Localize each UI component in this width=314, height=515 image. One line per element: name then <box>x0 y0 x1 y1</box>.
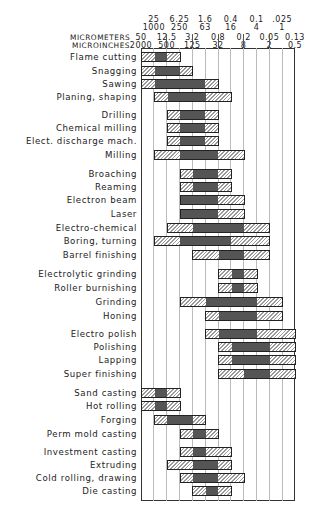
occasional-range-segment <box>218 474 243 482</box>
occasional-range-segment <box>167 389 180 397</box>
tick-label-microinches: 0.5 <box>280 42 310 50</box>
occasional-range-segment <box>168 124 181 132</box>
process-label: Electron beam <box>67 195 137 205</box>
process-range-bar <box>205 329 296 339</box>
process-label: Polishing <box>93 342 137 352</box>
process-range-bar <box>141 66 193 76</box>
average-range-segment <box>167 416 192 424</box>
average-range-segment <box>180 237 231 245</box>
occasional-range-segment <box>142 402 155 410</box>
occasional-range-segment <box>142 389 155 397</box>
tick-label-microinches: 1 <box>267 24 297 32</box>
occasional-range-segment <box>257 330 295 338</box>
average-range-segment <box>155 80 206 88</box>
average-range-segment <box>155 389 168 397</box>
process-label: Cold rolling, drawing <box>36 473 137 483</box>
process-range-bar <box>192 250 270 260</box>
average-range-segment <box>219 330 257 338</box>
occasional-range-segment <box>219 284 232 292</box>
occasional-range-segment <box>219 356 232 364</box>
occasional-range-segment <box>257 298 282 306</box>
process-label: Investment casting <box>44 447 137 457</box>
average-range-segment <box>180 124 205 132</box>
occasional-range-segment <box>219 270 232 278</box>
occasional-range-segment <box>206 448 231 456</box>
occasional-range-segment <box>205 137 218 145</box>
occasional-range-segment <box>270 356 295 364</box>
occasional-range-segment <box>270 370 295 378</box>
process-range-bar <box>154 236 271 246</box>
average-range-segment <box>155 402 168 410</box>
occasional-range-segment <box>168 137 181 145</box>
occasional-range-segment <box>168 224 193 232</box>
occasional-range-segment <box>180 67 193 75</box>
occasional-range-segment <box>168 111 181 119</box>
occasional-range-segment <box>181 170 194 178</box>
occasional-range-segment <box>219 343 232 351</box>
occasional-range-segment <box>181 474 194 482</box>
process-range-bar <box>167 123 219 133</box>
occasional-range-segment <box>167 402 180 410</box>
process-label: Electrolytic grinding <box>38 269 137 279</box>
process-range-bar <box>180 169 232 179</box>
occasional-range-segment <box>155 237 180 245</box>
process-label: Broaching <box>88 169 137 179</box>
process-range-bar <box>154 150 245 160</box>
process-range-bar <box>180 182 232 192</box>
average-range-segment <box>244 370 269 378</box>
occasional-range-segment <box>244 251 269 259</box>
occasional-range-segment <box>142 67 155 75</box>
process-label: Die casting <box>82 486 137 496</box>
process-label: Grinding <box>95 297 137 307</box>
occasional-range-segment <box>155 151 180 159</box>
occasional-range-segment <box>218 487 231 495</box>
occasional-range-segment <box>181 183 194 191</box>
occasional-range-segment <box>193 487 206 495</box>
occasional-range-segment <box>218 170 231 178</box>
occasional-range-segment <box>218 210 243 218</box>
process-label: Super finishing <box>64 369 137 379</box>
process-range-bar <box>180 209 245 219</box>
process-range-bar <box>180 429 220 439</box>
process-label: Sand casting <box>74 388 137 398</box>
process-range-bar <box>218 269 258 279</box>
process-label: Drilling <box>102 110 137 120</box>
process-label: Milling <box>105 150 137 160</box>
occasional-range-segment <box>270 343 295 351</box>
process-label: Hot rolling <box>86 401 137 411</box>
process-range-bar <box>154 415 206 425</box>
process-range-bar <box>192 486 232 496</box>
occasional-range-segment <box>244 270 257 278</box>
process-label: Reaming <box>95 182 137 192</box>
average-range-segment <box>155 53 168 61</box>
occasional-range-segment <box>257 312 282 320</box>
occasional-range-segment <box>193 251 218 259</box>
process-range-bar <box>180 447 232 457</box>
occasional-range-segment <box>205 124 218 132</box>
process-range-bar <box>167 460 232 470</box>
occasional-range-segment <box>244 284 257 292</box>
process-range-bar <box>180 473 245 483</box>
average-range-segment <box>193 224 244 232</box>
occasional-range-segment <box>206 330 219 338</box>
average-range-segment <box>232 356 270 364</box>
occasional-range-segment <box>244 224 269 232</box>
process-label: Laser <box>111 209 137 219</box>
process-range-bar <box>167 110 219 120</box>
process-label: Planing, shaping <box>56 92 137 102</box>
average-range-segment <box>155 67 180 75</box>
average-range-segment <box>232 270 245 278</box>
process-label: Sawing <box>102 79 137 89</box>
occasional-range-segment <box>193 416 206 424</box>
occasional-range-segment <box>155 416 168 424</box>
average-range-segment <box>206 487 219 495</box>
header-tick <box>192 34 193 48</box>
occasional-range-segment <box>218 183 231 191</box>
process-label: Perm mold casting <box>47 429 137 439</box>
process-label: Flame cutting <box>70 52 137 62</box>
process-range-bar <box>141 401 181 411</box>
grid-line <box>269 48 270 501</box>
occasional-range-segment <box>205 111 218 119</box>
average-range-segment <box>193 474 218 482</box>
occasional-range-segment <box>168 461 193 469</box>
